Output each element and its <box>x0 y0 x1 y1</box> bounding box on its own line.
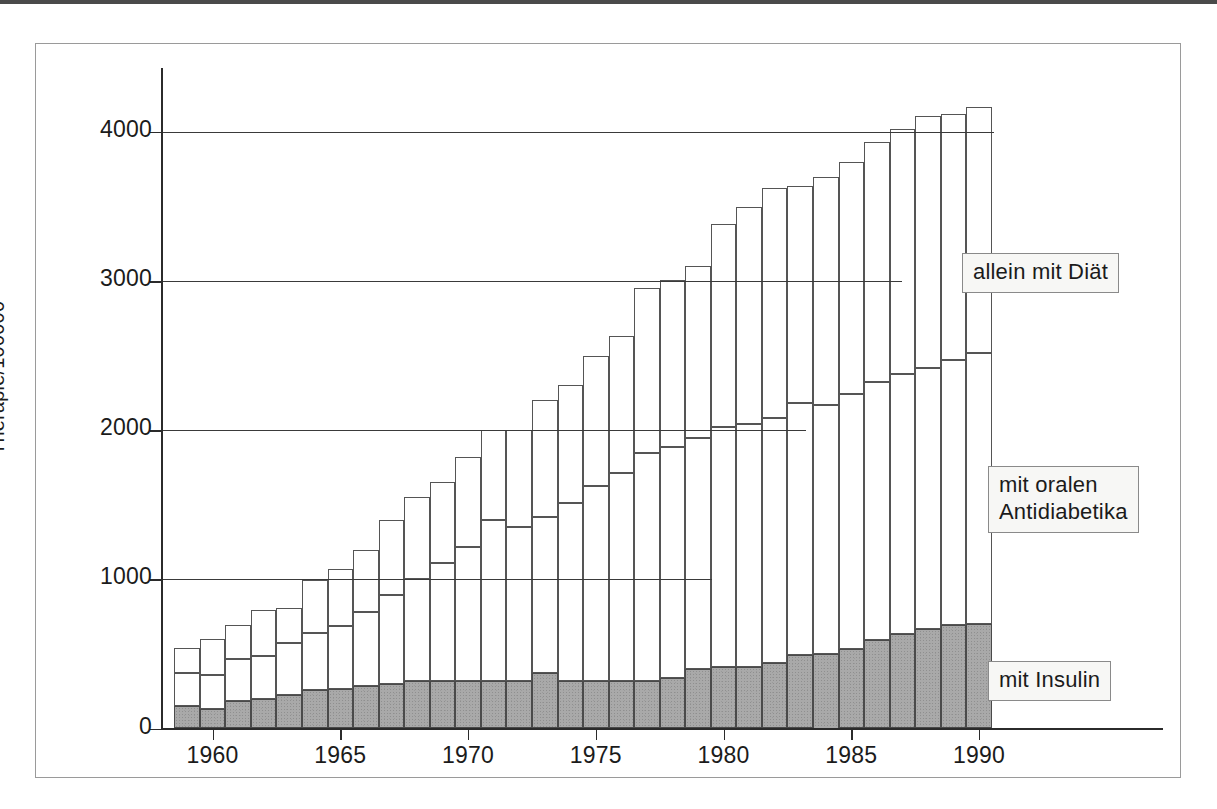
bar-segment-oral <box>660 447 686 677</box>
bar-stack <box>711 0 737 729</box>
gridline <box>162 579 712 580</box>
bar-segment-insulin <box>660 678 686 729</box>
bar-segment-diet <box>276 608 302 642</box>
bar-segment-insulin <box>762 663 788 729</box>
stacked-bar-chart: 01000200030004000 1960196519701975198019… <box>0 0 1217 809</box>
bar-stack <box>966 0 992 729</box>
bar-segment-diet <box>762 188 788 418</box>
bar-segment-insulin <box>711 667 737 728</box>
bar-stack <box>660 0 686 729</box>
bar-segment-diet <box>302 580 328 633</box>
bar-segment-insulin <box>353 686 379 729</box>
bar-segment-diet <box>404 497 430 578</box>
x-axis-tick-label: 1970 <box>442 742 494 769</box>
bar-segment-oral <box>583 486 609 681</box>
bar-segment-diet <box>941 114 967 360</box>
bar-stack <box>200 0 226 729</box>
bar-segment-diet <box>583 356 609 486</box>
bar-segment-insulin <box>200 709 226 728</box>
bar-stack <box>941 0 967 729</box>
bar-segment-oral <box>711 427 737 667</box>
y-axis-tick-label: 2000 <box>100 414 152 441</box>
bar-stack <box>276 0 302 729</box>
bar-segment-diet <box>966 107 992 353</box>
bar-stack <box>609 0 635 729</box>
x-axis-tick-label: 1965 <box>314 742 366 769</box>
bar-segment-insulin <box>915 629 941 728</box>
x-axis-tick <box>468 728 469 740</box>
bar-segment-insulin <box>864 640 890 729</box>
bar-segment-oral <box>558 503 584 680</box>
bar-segment-diet <box>251 610 277 656</box>
y-axis-line <box>161 68 163 730</box>
x-axis-tick <box>596 728 597 740</box>
x-axis-tick <box>213 728 214 740</box>
bar-stack <box>532 0 558 729</box>
bar-stack <box>915 0 941 729</box>
bar-segment-diet <box>200 639 226 675</box>
bar-segment-oral <box>736 424 762 667</box>
bar-segment-insulin <box>558 681 584 729</box>
bar-stack <box>864 0 890 729</box>
bar-segment-insulin <box>506 681 532 729</box>
bar-segment-insulin <box>634 681 660 729</box>
bar-segment-oral <box>506 527 532 681</box>
bar-segment-diet <box>787 186 813 403</box>
bar-segment-oral <box>634 453 660 680</box>
y-axis-tick-label: 0 <box>139 713 152 740</box>
bar-segment-insulin <box>941 625 967 729</box>
bar-segment-oral <box>839 394 865 648</box>
bar-segment-oral <box>379 595 405 684</box>
bar-segment-oral <box>200 675 226 709</box>
bar-segment-diet <box>532 400 558 517</box>
x-axis-tick-label: 1975 <box>570 742 622 769</box>
bar-segment-diet <box>481 430 507 520</box>
x-axis-tick <box>340 728 341 740</box>
bar-segment-oral <box>609 473 635 680</box>
bar-segment-insulin <box>302 690 328 728</box>
bar-segment-diet <box>353 550 379 613</box>
bar-stack <box>839 0 865 729</box>
bar-segment-diet <box>890 129 916 374</box>
bar-segment-oral <box>864 382 890 640</box>
bar-stack <box>455 0 481 729</box>
bar-segment-insulin <box>609 681 635 729</box>
bar-segment-oral <box>481 520 507 681</box>
bar-segment-diet <box>711 224 737 427</box>
bar-segment-insulin <box>430 681 456 729</box>
x-axis-tick-label: 1990 <box>953 742 1005 769</box>
bar-stack <box>736 0 762 729</box>
bar-stack <box>430 0 456 729</box>
x-axis-tick <box>851 728 852 740</box>
bar-stack <box>251 0 277 729</box>
bar-segment-diet <box>379 520 405 595</box>
bar-segment-oral <box>251 656 277 699</box>
bar-segment-oral <box>762 418 788 663</box>
bar-segment-diet <box>660 280 686 447</box>
bar-stack <box>379 0 405 729</box>
bar-segment-diet <box>813 177 839 404</box>
bar-segment-diet <box>174 648 200 673</box>
bar-segment-insulin <box>379 684 405 729</box>
bar-stack <box>685 0 711 729</box>
bar-segment-insulin <box>225 701 251 729</box>
bar-segment-diet <box>864 142 890 381</box>
x-axis-tick-label: 1985 <box>825 742 877 769</box>
bar-segment-diet <box>506 430 532 528</box>
bar-segment-diet <box>430 482 456 563</box>
x-axis-tick-label: 1960 <box>187 742 239 769</box>
annotation-insulin: mit Insulin <box>988 661 1111 701</box>
bar-segment-diet <box>609 336 635 473</box>
bar-segment-diet <box>455 457 481 546</box>
bar-segment-insulin <box>251 699 277 728</box>
bar-stack <box>225 0 251 729</box>
x-axis-tick <box>724 728 725 740</box>
gridline <box>162 281 902 282</box>
bar-segment-oral <box>813 405 839 654</box>
bar-segment-diet <box>685 266 711 438</box>
bar-stack <box>762 0 788 729</box>
bar-segment-oral <box>174 673 200 706</box>
bar-stack <box>506 0 532 729</box>
bar-segment-oral <box>404 579 430 681</box>
bar-segment-oral <box>430 563 456 681</box>
